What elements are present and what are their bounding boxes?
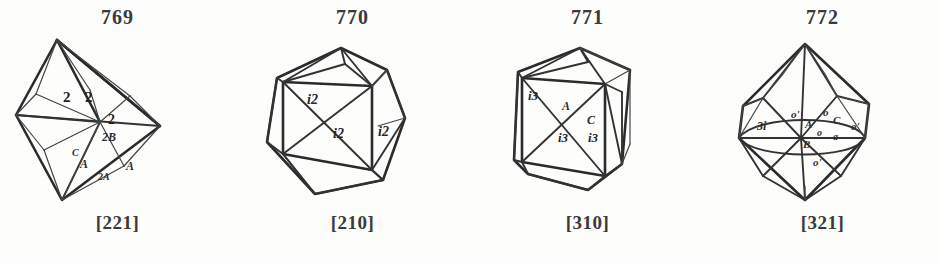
figure-index: [210] <box>235 212 470 234</box>
figure-772: 772 <box>705 0 940 264</box>
face-label: i2 <box>307 92 318 107</box>
face-label: 2 <box>85 89 93 105</box>
face-label: 2 <box>63 89 71 105</box>
face-label: A <box>125 159 134 173</box>
figure-number: 771 <box>470 6 705 29</box>
face-label: o <box>817 127 822 138</box>
face-label: i2 <box>378 124 389 139</box>
face-label: A <box>79 157 88 171</box>
figure-index: [321] <box>705 212 940 234</box>
crystal-figure-plate: 769 <box>0 0 940 264</box>
face-label: i3 <box>528 88 539 103</box>
face-label: 2A <box>97 171 110 182</box>
face-label: C <box>72 147 79 158</box>
face-label: B <box>802 138 810 150</box>
face-label: A <box>561 99 570 113</box>
figure-number: 772 <box>705 6 940 29</box>
face-label: i3 <box>558 130 569 145</box>
face-label: C <box>587 113 596 127</box>
face-label: o' <box>791 108 800 120</box>
face-label: C <box>833 114 841 126</box>
crystal-drawing-770: i2 i2 i2 <box>235 34 470 210</box>
face-label: 2 <box>108 112 115 127</box>
figure-number: 770 <box>235 6 470 29</box>
face-label: o' <box>851 120 860 132</box>
crystal-drawing-771: i3 A C i3 i3 <box>470 34 705 210</box>
crystal-drawing-769: 2 2 2 2B C A 2A A <box>0 34 235 210</box>
face-label: i2 <box>333 126 344 141</box>
face-label: A <box>804 118 812 130</box>
face-label: o <box>823 106 829 118</box>
figure-index: [221] <box>0 212 235 234</box>
face-label: a <box>833 131 838 142</box>
figure-index: [310] <box>470 212 705 234</box>
face-label: o' <box>813 156 822 168</box>
face-label: 2B <box>101 130 116 144</box>
face-label: 3i <box>756 119 767 133</box>
face-label: i3 <box>588 130 599 145</box>
figure-770: 770 <box>235 0 470 264</box>
figure-771: 771 <box>470 0 705 264</box>
figure-number: 769 <box>0 6 235 29</box>
figure-769: 769 <box>0 0 235 264</box>
crystal-drawing-772: 3i o' o A o C a o' B o' <box>705 34 940 210</box>
